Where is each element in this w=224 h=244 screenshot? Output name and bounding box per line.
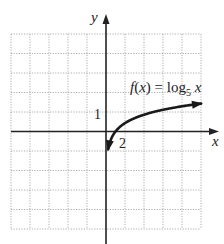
y-axis-arrow-icon <box>103 14 110 24</box>
function-label-eq-log: = log <box>151 79 187 95</box>
y-axis-label: y <box>89 9 98 25</box>
function-label: f(x) = log5 x <box>130 79 202 98</box>
x-axis-label: x <box>211 133 219 149</box>
log-graph: y x 1 2 f(x) = log5 x <box>0 0 224 244</box>
function-label-arg: x <box>191 79 202 95</box>
x-tick-label-2: 2 <box>119 136 126 151</box>
y-tick-label-1: 1 <box>94 107 101 122</box>
